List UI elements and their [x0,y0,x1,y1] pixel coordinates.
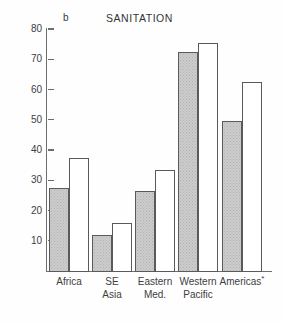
y-tick-label: 30 [16,175,42,185]
chart-title: SANITATION [106,12,173,24]
y-tick-label: 60 [16,85,42,95]
bar-shaded [92,235,112,272]
y-tick-mark [48,59,54,60]
y-tick-mark [48,119,54,120]
category-label-footnote-marker: * [261,274,264,283]
y-tick-label: 70 [16,54,42,64]
bar-open [198,43,218,272]
y-tick-label: 40 [16,145,42,155]
y-tick-label: 50 [16,115,42,125]
bar-open [112,223,132,272]
y-tick-label: 20 [16,206,42,216]
bar-shaded [49,188,69,272]
panel-letter: b [63,12,69,23]
y-tick-mark [48,149,54,150]
y-tick-label: 10 [16,236,42,246]
bar-open [242,82,262,272]
category-label: Americas* [206,276,278,289]
bar-shaded [222,121,242,272]
category-label-line2: Pacific [162,289,234,302]
category-label-line1: SE [105,276,118,287]
y-tick-mark [48,28,54,29]
category-label-line1: Americas [220,276,262,287]
bar-shaded [135,191,155,272]
y-tick-label: 80 [16,24,42,34]
sanitation-bar-chart-figure: b SANITATION 8070605040302010 AfricaSEAs… [0,0,283,322]
y-tick-mark [48,180,54,181]
bar-open [69,158,89,272]
bar-shaded [178,52,198,272]
bar-open [155,170,175,272]
y-tick-mark [48,89,54,90]
